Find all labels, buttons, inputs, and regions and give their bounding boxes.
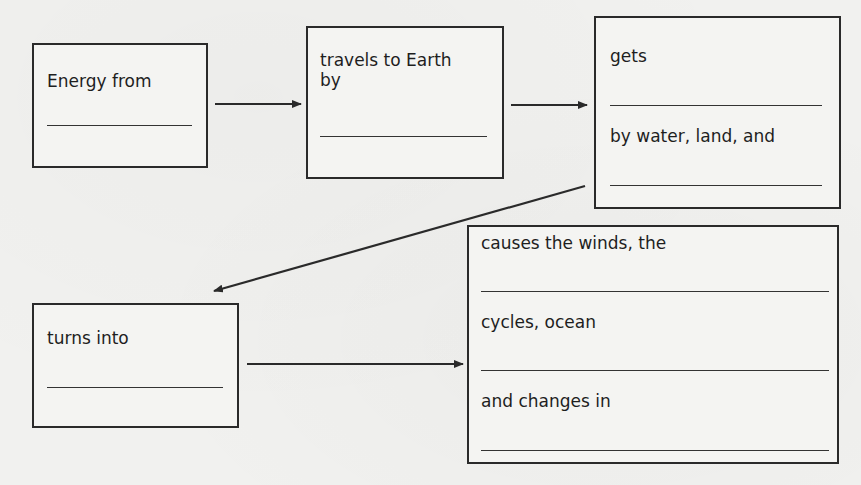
box3-answer-blank-1[interactable] — [610, 105, 822, 106]
box4-answer-blank[interactable] — [47, 387, 223, 388]
box1-answer-blank[interactable] — [47, 125, 192, 126]
box2-label-line2: by — [320, 70, 341, 90]
box2-label-line1: travels to Earth — [320, 50, 452, 70]
box-energy-from: Energy from — [32, 43, 208, 168]
box-gets-absorbed: gets by water, land, and — [594, 16, 841, 209]
box1-label: Energy from — [47, 71, 151, 91]
box-turns-into: turns into — [32, 303, 239, 428]
box5-label-line1: causes the winds, the — [481, 233, 666, 253]
box3-answer-blank-2[interactable] — [610, 185, 822, 186]
box5-label-line2: cycles, ocean — [481, 312, 596, 332]
box5-answer-blank-1[interactable] — [481, 291, 829, 292]
box3-label-line2: by water, land, and — [610, 126, 775, 146]
box5-label-line3: and changes in — [481, 391, 611, 411]
box3-label-line1: gets — [610, 46, 647, 66]
box4-label: turns into — [47, 328, 129, 348]
box-causes-effects: causes the winds, the cycles, ocean and … — [467, 225, 839, 464]
box5-answer-blank-3[interactable] — [481, 450, 829, 451]
box5-answer-blank-2[interactable] — [481, 370, 829, 371]
box2-answer-blank[interactable] — [320, 136, 487, 137]
box-travels-to-earth: travels to Earth by — [306, 26, 504, 179]
